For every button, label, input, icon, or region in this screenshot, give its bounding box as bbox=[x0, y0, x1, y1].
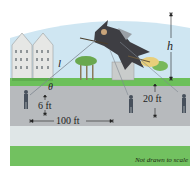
label-6ft: 6 ft bbox=[38, 101, 52, 111]
label-h: h bbox=[167, 40, 173, 52]
label-20ft: 20 ft bbox=[143, 94, 162, 104]
label-100ft: 100 ft bbox=[56, 116, 80, 126]
label-theta: θ bbox=[48, 82, 53, 92]
sidewalk bbox=[10, 126, 190, 146]
not-to-scale-note: Not drawn to scale bbox=[135, 156, 188, 164]
label-l: l bbox=[58, 58, 61, 69]
diagram-illustration bbox=[0, 0, 196, 173]
road bbox=[10, 86, 190, 126]
